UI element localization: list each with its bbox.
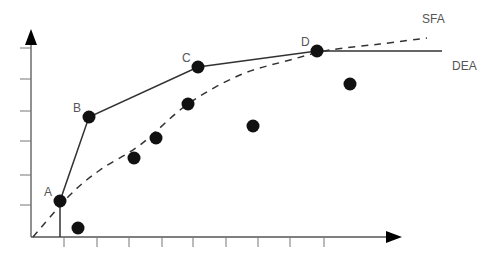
series-label-dea: DEA <box>452 59 477 73</box>
y-axis-arrow-icon <box>25 29 37 45</box>
series-label-sfa: SFA <box>422 12 445 26</box>
frontier-chart: ABCD SFADEA <box>0 0 495 265</box>
data-point <box>182 98 195 111</box>
frontier-lines <box>33 38 442 237</box>
data-point <box>344 78 357 91</box>
series-labels: SFADEA <box>422 12 477 73</box>
point-label-c: C <box>182 51 191 65</box>
point-a <box>54 195 67 208</box>
point-label-a: A <box>44 185 52 199</box>
axes <box>25 29 402 243</box>
point-c <box>192 61 205 74</box>
axis-ticks <box>20 48 324 247</box>
data-point <box>72 222 85 235</box>
point-label-b: B <box>73 101 81 115</box>
x-axis-arrow-icon <box>386 231 402 243</box>
dea-frontier-line <box>60 51 442 237</box>
point-d <box>311 45 324 58</box>
data-point <box>247 120 260 133</box>
point-label-d: D <box>301 35 310 49</box>
data-point <box>128 152 141 165</box>
sfa-frontier-line <box>33 38 427 237</box>
point-b <box>83 111 96 124</box>
data-point <box>150 132 163 145</box>
data-points <box>54 45 357 235</box>
